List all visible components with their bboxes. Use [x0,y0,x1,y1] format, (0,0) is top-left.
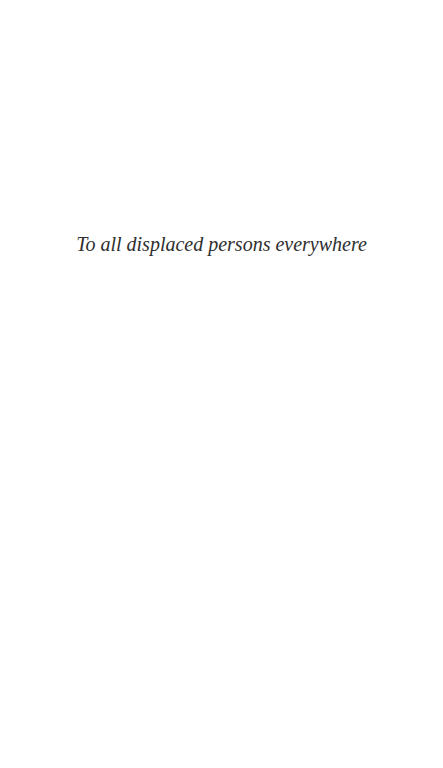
book-page: To all displaced persons everywhere [0,0,443,768]
dedication-text: To all displaced persons everywhere [0,231,443,257]
